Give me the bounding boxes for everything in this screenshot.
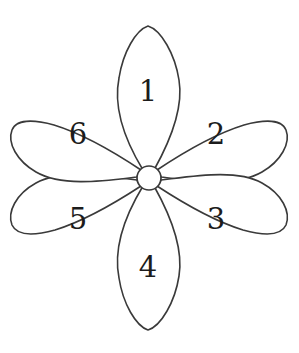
petal-label-6: 6 [69,117,87,151]
petal-label-3: 3 [207,202,225,236]
petal-label-2: 2 [207,117,225,151]
flower-diagram-canvas: 1 2 3 4 5 6 [0,0,299,353]
petal-label-5: 5 [69,202,87,236]
flower-drawing: 1 2 3 4 5 6 [0,0,299,353]
flower-center-disc[interactable] [137,166,161,190]
petal-label-1: 1 [139,74,157,108]
petal-label-4: 4 [139,250,157,284]
